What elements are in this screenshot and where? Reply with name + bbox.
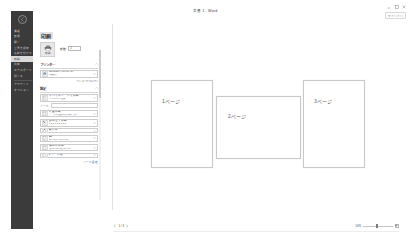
setting-paper-size-text: A4 210 mm x 297 mm (49, 136, 93, 142)
chevron-down-icon[interactable] (93, 97, 96, 99)
setting-margins-text: 標準の余白 左: 30 mm 右: 30 mm (49, 145, 93, 151)
preview-page-3[interactable]: 3ページ (303, 80, 365, 168)
printer-text: Microsoft Print to PDF 準備完了 (49, 71, 93, 77)
backstage-item-save[interactable]: 上書き保存 (13, 45, 32, 51)
setting-paper-size-subtitle: 210 mm x 297 mm (49, 139, 93, 142)
settings-scrollbar-thumb[interactable] (99, 50, 101, 98)
printer-device-icon (42, 71, 48, 77)
page-count-label: 1 / 3 (119, 224, 124, 228)
collate-icon (42, 120, 48, 126)
status-bar: 1 / 3 54% − + (11, 224, 399, 232)
pages-per-sheet-icon (42, 153, 48, 159)
chevron-down-icon[interactable] (93, 130, 96, 132)
print-action-row: 印刷 部数: 1 (40, 42, 98, 57)
preview-page-2[interactable]: 2ページ (216, 96, 301, 159)
settings-section-label: 設定 (40, 86, 98, 91)
setting-paper-size[interactable]: A4 210 mm x 297 mm (40, 135, 98, 143)
window-controls (387, 5, 406, 9)
printer-section-label: プリンター (40, 62, 98, 67)
zoom-in-button[interactable]: + (395, 224, 397, 227)
backstage-item-options[interactable]: オプション (13, 87, 32, 93)
minimize-icon[interactable] (387, 5, 391, 9)
title-bar: 文書 1 - Word (0, 0, 410, 20)
chevron-down-icon[interactable] (93, 73, 96, 75)
backstage-item-account[interactable]: アカウント (13, 81, 32, 87)
setting-collate-subtitle: 1,2,3 1,2,3 1,2,3 (49, 123, 93, 126)
page-setup-link[interactable]: ページ設定 (40, 160, 98, 164)
setting-pages-per-sheet[interactable]: 1 ページ/枚 (40, 153, 98, 158)
copies-label: 部数: (60, 47, 67, 51)
setting-pages-per-sheet-text: 1 ページ/枚 (49, 154, 93, 157)
setting-orientation-title: 縦方向 (49, 129, 93, 132)
setting-print-range-subtitle: ドキュメント全体 (49, 98, 93, 101)
setting-duplex-subtitle: ページの片面のみを印刷します (49, 114, 93, 117)
zoom-slider[interactable]: − + (363, 224, 393, 228)
close-icon[interactable] (402, 5, 406, 9)
setting-duplex[interactable]: 片面印刷 ページの片面のみを印刷します (40, 110, 98, 118)
chevron-down-icon[interactable] (93, 154, 96, 156)
margins-icon (42, 145, 48, 151)
copies-row: 部数: 1 (60, 46, 81, 51)
printer-label-text: プリンター (40, 62, 55, 67)
print-button[interactable]: 印刷 (40, 42, 55, 57)
setting-duplex-text: 片面印刷 ページの片面のみを印刷します (49, 111, 93, 117)
page-navigation: 1 / 3 (113, 224, 129, 228)
pages-field-label: ページ: (40, 104, 50, 108)
zoom-controls: 54% − + (355, 224, 399, 228)
word-print-backstage: 文書 1 - Word サインイン 情報 新規 開く 上書き保存 名前を付けて保… (0, 0, 410, 240)
backstage-item-export[interactable]: エクスポート (13, 67, 32, 73)
setting-orientation[interactable]: 縦方向 (40, 128, 98, 133)
preview-page-1[interactable]: 1ページ (151, 80, 213, 168)
print-settings-panel: 印刷 印刷 部数: 1 プリンター (40, 24, 98, 204)
zoom-slider-knob[interactable] (376, 224, 378, 227)
setting-print-range-text: すべてのページを印刷 ドキュメント全体 (49, 95, 93, 101)
print-preview-area: 1ページ 2ページ 3ページ (113, 20, 410, 216)
setting-pages-per-sheet-title: 1 ページ/枚 (49, 154, 93, 157)
chevron-down-icon[interactable] (93, 113, 96, 115)
chevron-down-icon[interactable] (93, 137, 96, 139)
setting-print-range[interactable]: すべてのページを印刷 ドキュメント全体 (40, 94, 98, 102)
preview-page-3-label: 3ページ (314, 97, 332, 104)
window-title: 文書 1 - Word (193, 8, 218, 13)
setting-pages-field-row: ページ: (40, 103, 98, 108)
print-button-label: 印刷 (45, 51, 51, 55)
setting-collate[interactable]: 部単位で印刷 1,2,3 1,2,3 1,2,3 (40, 119, 98, 127)
printer-selector[interactable]: Microsoft Print to PDF 準備完了 (40, 70, 98, 78)
printer-icon (44, 45, 52, 51)
pages-field-input[interactable] (51, 103, 98, 108)
one-sided-icon (42, 111, 48, 117)
printer-status: 準備完了 (49, 74, 93, 77)
backstage-rail: 情報 新規 開く 上書き保存 名前を付けて保存 印刷 共有 エクスポート 閉じる… (11, 11, 33, 229)
orientation-icon (42, 128, 48, 134)
backstage-item-save-as[interactable]: 名前を付けて保存 (13, 50, 32, 56)
chevron-left-icon[interactable] (113, 224, 117, 228)
setting-margins[interactable]: 標準の余白 左: 30 mm 右: 30 mm (40, 144, 98, 152)
paper-size-icon (42, 136, 48, 142)
document-range-icon (42, 95, 48, 101)
setting-orientation-text: 縦方向 (49, 129, 93, 132)
restore-icon[interactable] (395, 5, 399, 9)
chevron-down-icon[interactable] (93, 147, 96, 149)
preview-page-2-label: 2ページ (228, 112, 246, 119)
preview-page-1-label: 1ページ (162, 97, 180, 104)
settings-label-text: 設定 (40, 86, 46, 91)
setting-collate-text: 部単位で印刷 1,2,3 1,2,3 1,2,3 (49, 120, 93, 126)
print-heading: 印刷 (40, 32, 53, 40)
copies-input[interactable]: 1 (68, 46, 81, 51)
chevron-down-icon[interactable] (93, 122, 96, 124)
back-arrow-icon[interactable] (18, 15, 27, 24)
settings-scrollbar[interactable] (99, 50, 101, 200)
zoom-out-button[interactable]: − (360, 224, 362, 227)
printer-properties-link[interactable]: プリンターのプロパティ (40, 79, 98, 83)
chevron-right-icon[interactable] (125, 224, 129, 228)
setting-margins-subtitle: 左: 30 mm 右: 30 mm (49, 148, 93, 151)
account-chip[interactable]: サインイン (385, 12, 406, 19)
